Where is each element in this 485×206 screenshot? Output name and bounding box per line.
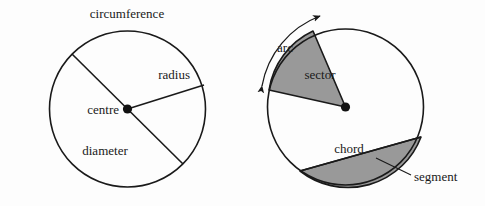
label-arc: arc [277,40,293,55]
label-radius: radius [158,67,190,82]
label-chord: chord [334,141,364,156]
centre-dot [123,104,132,113]
radius-line [128,85,205,109]
circle-parts-figure: circumference radius centre diameter [0,0,485,206]
label-segment: segment [414,169,458,184]
label-sector: sector [304,67,336,82]
label-diameter: diameter [82,143,128,158]
circle-diagram-svg: circumference radius centre diameter [0,0,485,206]
right-centre-dot [341,102,350,111]
label-centre: centre [87,102,119,117]
right-circle-group: arc sector chord segment [262,16,458,188]
label-circumference: circumference [90,6,165,21]
left-circle-group: circumference radius centre diameter [50,6,206,187]
